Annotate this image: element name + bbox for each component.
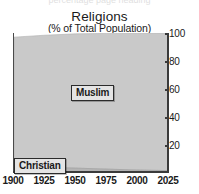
y-tick-100: 100	[169, 29, 199, 39]
label-christian: Christian	[14, 158, 66, 174]
x-tick-1950: 1950	[58, 175, 92, 186]
y-tick-40: 40	[169, 113, 199, 123]
clipped-text-artifact: percentage page heading	[0, 0, 199, 9]
clipped-text: percentage page heading	[0, 0, 199, 5]
plot-area	[13, 33, 167, 172]
x-tick-2025: 2025	[151, 175, 185, 186]
area-series-group	[14, 33, 168, 172]
x-tick-1925b: 1925	[27, 175, 61, 186]
label-muslim: Muslim	[71, 85, 114, 101]
x-tick-1975: 1975	[89, 175, 123, 186]
x-tick-1900: 1900	[0, 175, 30, 186]
y-tick-80: 80	[169, 57, 199, 67]
religions-area-chart: percentage page heading Religions (% of …	[0, 0, 199, 194]
y-tick-60: 60	[169, 85, 199, 95]
y-axis-line	[167, 33, 169, 173]
x-tick-2000: 2000	[120, 175, 154, 186]
y-tick-20: 20	[169, 141, 199, 151]
area-muslim	[14, 33, 168, 171]
